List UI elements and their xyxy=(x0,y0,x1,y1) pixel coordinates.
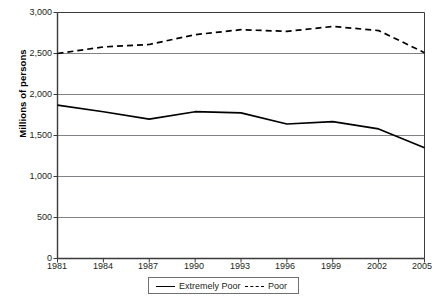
gridlines xyxy=(58,54,425,218)
x-tick-label: 1999 xyxy=(311,262,351,271)
x-tick-label: 1990 xyxy=(174,262,214,271)
legend-item-label: Poor xyxy=(268,281,287,291)
x-tick-label: 2002 xyxy=(357,262,397,271)
chart-legend: Extremely Poor Poor xyxy=(148,277,299,294)
series-line-extremely-poor xyxy=(58,105,425,148)
data-series-layer xyxy=(58,26,425,147)
x-tick-label: 2005 xyxy=(402,262,438,271)
legend-line-solid-icon xyxy=(156,286,175,287)
x-tick-label: 1987 xyxy=(128,262,168,271)
legend-item-label: Extremely Poor xyxy=(179,281,241,291)
chart-container: Millions of persons 3,000 2,500 2,000 1,… xyxy=(0,0,438,307)
x-tick-label: 1981 xyxy=(37,262,77,271)
series-line-poor xyxy=(58,26,425,53)
x-tick-label: 1993 xyxy=(220,262,260,271)
x-tick-label: 1984 xyxy=(83,262,123,271)
legend-line-dashed-icon xyxy=(245,286,264,287)
x-tick-label: 1996 xyxy=(265,262,305,271)
